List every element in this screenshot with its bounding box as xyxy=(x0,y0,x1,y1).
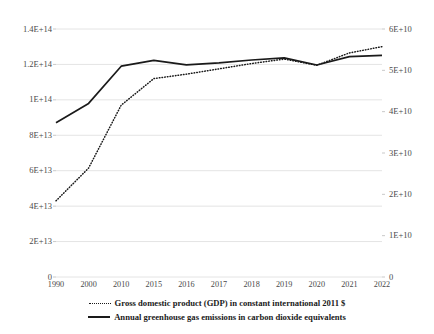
legend-label-gdp: Gross domestic product (GDP) in constant… xyxy=(115,299,346,308)
y-axis-right-tick: 1E+10 xyxy=(389,231,433,240)
y-axis-left-tick: 2E+13 xyxy=(2,237,52,246)
x-axis-tick: 2010 xyxy=(105,281,137,289)
y-axis-left-tick: 1.2E+14 xyxy=(2,60,52,69)
y-axis-left-tick: 8E+13 xyxy=(2,131,52,140)
x-axis-tick: 2000 xyxy=(73,281,105,289)
y-axis-left-tick: 1.4E+14 xyxy=(2,25,52,34)
y-axis-right-tick: 3E+10 xyxy=(389,149,433,158)
y-axis-right-tick: 5E+10 xyxy=(389,66,433,75)
x-axis-tick: 2019 xyxy=(268,281,300,289)
legend-item-emissions: Annual greenhouse gas emissions in carbo… xyxy=(0,310,434,324)
y-axis-left-tick: 0 xyxy=(2,273,52,282)
gridlines xyxy=(56,29,382,277)
axis-ticks xyxy=(53,29,385,277)
x-axis-tick: 1990 xyxy=(40,281,72,289)
x-axis-tick: 2022 xyxy=(366,281,398,289)
y-axis-right-tick: 2E+10 xyxy=(389,190,433,199)
y-axis-left-tick: 6E+13 xyxy=(2,166,52,175)
x-axis-tick: 2017 xyxy=(203,281,235,289)
x-axis-tick: 2021 xyxy=(333,281,365,289)
chart-legend: Gross domestic product (GDP) in constant… xyxy=(0,296,434,324)
y-axis-right-tick: 4E+10 xyxy=(389,107,433,116)
x-axis-tick: 2020 xyxy=(301,281,333,289)
x-axis-tick: 2018 xyxy=(236,281,268,289)
legend-item-gdp: Gross domestic product (GDP) in constant… xyxy=(0,296,434,310)
legend-swatch-dotted-icon xyxy=(89,303,111,304)
legend-label-emissions: Annual greenhouse gas emissions in carbo… xyxy=(114,313,346,322)
legend-swatch-solid-icon xyxy=(88,316,110,318)
chart-container: 02E+134E+136E+138E+131E+141.2E+141.4E+14… xyxy=(0,0,434,334)
y-axis-left-tick: 4E+13 xyxy=(2,202,52,211)
x-axis-tick: 2015 xyxy=(138,281,170,289)
y-axis-right-tick: 0 xyxy=(389,273,433,282)
series-line-gdp xyxy=(56,47,382,201)
x-axis-tick: 2016 xyxy=(170,281,202,289)
series-line-emissions xyxy=(56,55,382,122)
y-axis-left-tick: 1E+14 xyxy=(2,95,52,104)
y-axis-right-tick: 6E+10 xyxy=(389,25,433,34)
